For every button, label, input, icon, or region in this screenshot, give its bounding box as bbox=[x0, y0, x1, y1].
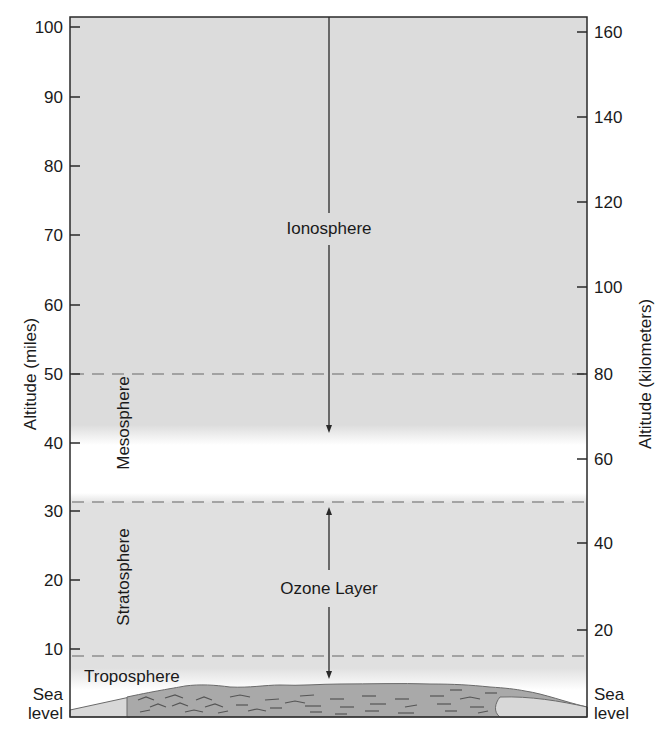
left-sea-level-label: Sea bbox=[33, 685, 64, 704]
ionosphere-label: Ionosphere bbox=[286, 219, 371, 238]
right-tick-label: 40 bbox=[594, 534, 613, 553]
left-sea-level-label: level bbox=[28, 704, 63, 723]
right-tick-label: 20 bbox=[594, 621, 613, 640]
right-axis-labels: 160 140 120 100 80 60 40 20 Sea level bbox=[594, 23, 629, 723]
left-tick-label: 50 bbox=[44, 365, 63, 384]
mesosphere-label: Mesosphere bbox=[114, 376, 133, 470]
right-tick-label: 160 bbox=[594, 23, 622, 42]
right-tick-label: 120 bbox=[594, 193, 622, 212]
left-axis-title: Altitude (miles) bbox=[21, 318, 40, 430]
right-axis-title: Altitude (kilometers) bbox=[636, 299, 655, 449]
right-tick-label: 80 bbox=[594, 365, 613, 384]
atmosphere-diagram: 100 90 80 70 60 50 40 30 20 10 Sea level… bbox=[0, 0, 669, 738]
right-tick-label: 140 bbox=[594, 108, 622, 127]
left-tick-label: 30 bbox=[44, 502, 63, 521]
stratosphere-label: Stratosphere bbox=[114, 528, 133, 625]
right-tick-label: 100 bbox=[594, 278, 622, 297]
right-sea-level-label: level bbox=[594, 704, 629, 723]
troposphere-label: Troposphere bbox=[84, 667, 180, 686]
mesosphere-clear-band bbox=[70, 445, 587, 493]
left-tick-label: 70 bbox=[44, 226, 63, 245]
left-tick-label: 80 bbox=[44, 157, 63, 176]
left-tick-label: 100 bbox=[35, 18, 63, 37]
left-tick-label: 20 bbox=[44, 571, 63, 590]
left-tick-label: 40 bbox=[44, 434, 63, 453]
right-sea-level-label: Sea bbox=[594, 685, 625, 704]
right-tick-label: 60 bbox=[594, 450, 613, 469]
left-tick-label: 90 bbox=[44, 88, 63, 107]
left-tick-label: 10 bbox=[44, 640, 63, 659]
left-tick-label: 60 bbox=[44, 296, 63, 315]
ozone-layer-label: Ozone Layer bbox=[280, 579, 378, 598]
